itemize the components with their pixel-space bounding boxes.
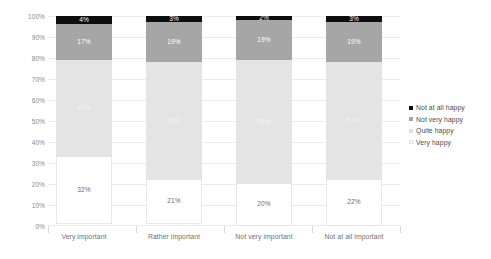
legend-label: Not at all happy [416, 104, 465, 111]
legend-swatch-dark-gray-icon [409, 117, 413, 121]
legend-item-quite-happy[interactable]: Quite happy [409, 127, 465, 134]
stacked-bar-chart: 100% 90% 80% 70% 60% 50% 40% 30% 20% 10%… [0, 0, 491, 259]
legend-label: Very happy [416, 139, 451, 146]
legend-label: Quite happy [416, 127, 454, 134]
legend-swatch-white-icon [409, 140, 413, 144]
legend-item-not-at-all-happy[interactable]: Not at all happy [409, 104, 465, 111]
chart-legend: Not at all happy Not very happy Quite ha… [409, 104, 465, 146]
legend-swatch-black-icon [409, 106, 413, 110]
legend-item-not-very-happy[interactable]: Not very happy [409, 116, 465, 123]
legend-label: Not very happy [416, 116, 463, 123]
legend-swatch-light-gray-icon [409, 129, 413, 133]
x-label-not-at-all-important: Not at all important [299, 233, 409, 240]
legend-item-very-happy[interactable]: Very happy [409, 139, 465, 146]
